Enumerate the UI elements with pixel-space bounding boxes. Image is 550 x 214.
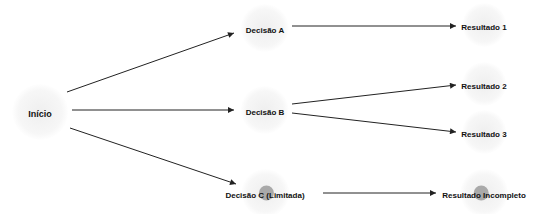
node-label-decisao-a: Decisão A — [246, 26, 284, 35]
node-label-inicio: Início — [28, 109, 52, 119]
node-inicio: Início — [28, 103, 52, 121]
node-decisao-b: Decisão B — [246, 101, 285, 119]
node-resultado-1: Resultado 1 — [461, 16, 506, 34]
node-label-decisao-c: Decisão C (Limitada) — [225, 191, 304, 200]
node-resultado-incompleto: Resultado Incompleto — [442, 184, 526, 202]
node-resultado-3: Resultado 3 — [461, 123, 506, 141]
edge-decisao_b-to-resultado_3 — [292, 113, 456, 132]
node-decisao-a: Decisão A — [246, 19, 284, 37]
node-label-resultado-2: Resultado 2 — [461, 82, 506, 91]
node-decisao-c: Decisão C (Limitada) — [225, 184, 304, 202]
node-label-resultado-incompleto: Resultado Incompleto — [442, 191, 526, 200]
node-label-resultado-1: Resultado 1 — [461, 23, 506, 32]
edge-inicio-to-decisao_a — [67, 33, 234, 92]
node-label-decisao-b: Decisão B — [246, 108, 285, 117]
node-resultado-2: Resultado 2 — [461, 75, 506, 93]
edge-inicio-to-decisao_c — [70, 128, 236, 184]
edge-decisao_b-to-resultado_2 — [292, 85, 456, 104]
node-label-resultado-3: Resultado 3 — [461, 130, 506, 139]
